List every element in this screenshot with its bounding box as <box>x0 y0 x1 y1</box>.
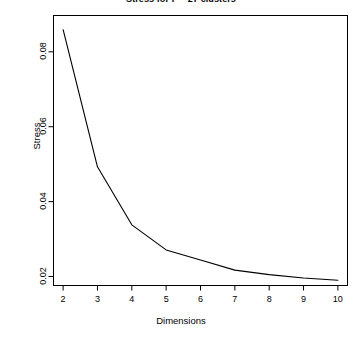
y-tick-label: 0.04 <box>38 181 48 221</box>
y-tick-label: 0.08 <box>38 31 48 71</box>
y-axis-title: Stress <box>31 106 42 166</box>
y-tick-label: 0.02 <box>38 256 48 296</box>
axis-tick-marks <box>49 52 338 291</box>
stress-curve <box>63 30 338 281</box>
plot-frame <box>54 16 348 286</box>
chart-plot-region: Stress for F = 27 clusters 0.020.040.060… <box>0 0 362 341</box>
chart-canvas <box>0 0 362 341</box>
x-tick-label: 10 <box>318 294 358 304</box>
x-axis-title: Dimensions <box>0 315 362 326</box>
